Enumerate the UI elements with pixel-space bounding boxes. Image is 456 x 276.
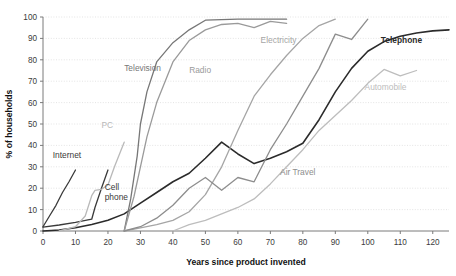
y-tick-label-80: 80 (28, 56, 38, 65)
series-line-automobile (173, 69, 417, 231)
series-line-internet (43, 170, 75, 227)
y-tick-label-30: 30 (28, 163, 38, 172)
x-tick-label-100: 100 (361, 238, 375, 247)
y-tick-label-20: 20 (28, 184, 38, 193)
series-label-electricity: Electricity (261, 35, 298, 45)
x-tick-label-30: 30 (136, 238, 146, 247)
y-tick-labels: 0102030405060708090100 (23, 13, 37, 236)
y-tick-label-90: 90 (28, 34, 38, 43)
x-tick-label-120: 120 (426, 238, 440, 247)
series-label-cell-phone: Cellphone (105, 182, 129, 202)
y-tick-label-60: 60 (28, 99, 38, 108)
y-axis-title: % of households (4, 89, 14, 158)
series-line-radio (124, 21, 286, 231)
series-label-air-travel: Air Travel (280, 167, 316, 177)
series-label-pc: PC (101, 120, 113, 130)
series-line-cell-phone (43, 170, 108, 227)
series-label-telephone: Telephone (381, 35, 423, 45)
x-tick-label-80: 80 (298, 238, 308, 247)
line-chart: 0102030405060708090100 01020304050607080… (0, 0, 456, 276)
y-tick-label-10: 10 (28, 206, 38, 215)
y-tick-label-100: 100 (23, 13, 37, 22)
chart-container: 0102030405060708090100 01020304050607080… (0, 0, 456, 276)
series-label-television: Television (124, 63, 161, 73)
x-tick-label-0: 0 (41, 238, 46, 247)
x-axis-title: Years since product invented (186, 257, 305, 267)
x-tick-label-90: 90 (331, 238, 341, 247)
x-tick-label-110: 110 (394, 238, 407, 247)
x-tick-label-10: 10 (71, 238, 81, 247)
series-line-air-travel (124, 19, 368, 231)
series-label-automobile: Automobile (365, 82, 407, 92)
x-tick-labels: 0102030405060708090100110120 (41, 238, 440, 247)
series-line-television (124, 19, 286, 231)
x-tick-label-60: 60 (233, 238, 243, 247)
y-tick-label-0: 0 (32, 227, 37, 236)
x-tick-label-50: 50 (201, 238, 211, 247)
y-tick-label-50: 50 (28, 120, 38, 129)
series-line-electricity (124, 19, 335, 231)
x-tick-label-40: 40 (168, 238, 178, 247)
series-label-radio: Radio (189, 65, 211, 75)
y-tick-label-70: 70 (28, 77, 38, 86)
y-tick-label-40: 40 (28, 141, 38, 150)
series-label-internet: Internet (53, 150, 82, 160)
x-tick-label-20: 20 (103, 238, 113, 247)
x-tick-label-70: 70 (266, 238, 276, 247)
